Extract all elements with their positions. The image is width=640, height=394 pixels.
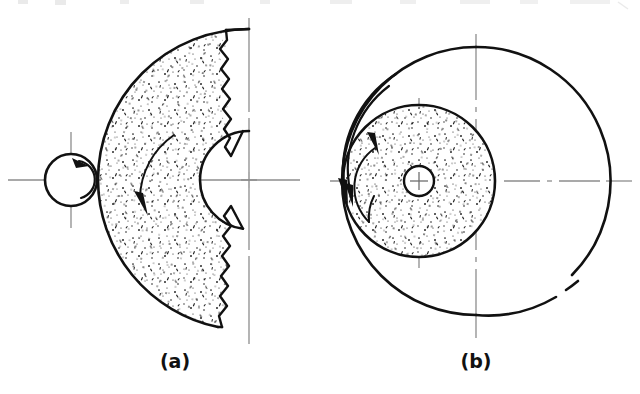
outer-circle-arc-right [476,47,611,275]
outer-circle-arc-gap-dash [566,281,578,290]
panel-a: (a) [8,18,400,372]
caption-a: (a) [160,350,190,372]
pinion-group [45,154,97,206]
engineering-figure-svg: (a) [0,0,640,394]
small-circle [45,154,97,206]
outer-circle-arc-bottom [476,297,556,316]
page-top-cutoff [18,0,628,9]
ring-top-edge [226,29,249,30]
figure-root: (a) [0,0,640,394]
caption-b: (b) [461,350,492,372]
panel-b: (b) [330,34,632,372]
